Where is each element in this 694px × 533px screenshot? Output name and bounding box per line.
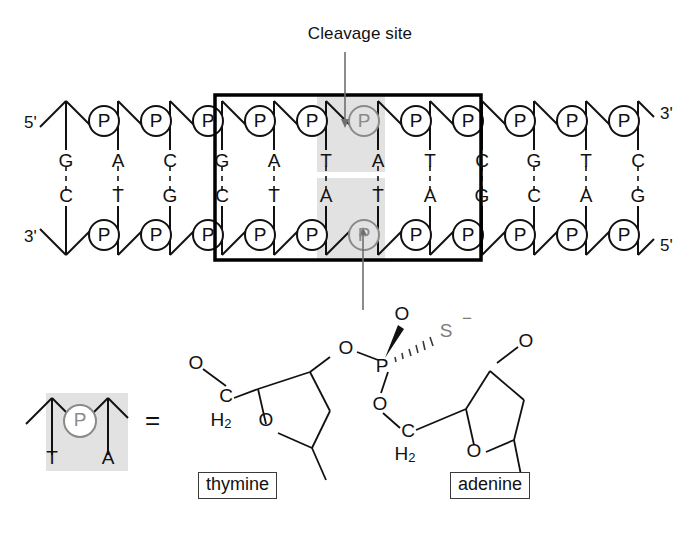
five-prime-left-label: 5' xyxy=(24,113,37,133)
phosphate-label: P xyxy=(560,110,584,132)
top-base: A xyxy=(366,150,390,172)
thymine-base-box: thymine xyxy=(198,472,277,499)
phosphate-label-cleaved: P xyxy=(352,224,376,246)
phosphate-label: P xyxy=(404,224,428,246)
top-base: A xyxy=(262,150,286,172)
cleavage-site-label: Cleavage site xyxy=(280,24,440,44)
bottom-base: C xyxy=(54,185,78,207)
sulfur-label: S xyxy=(437,320,455,342)
three-prime-right-label: 3' xyxy=(660,104,673,124)
phosphate-label-cleaved: P xyxy=(352,110,376,132)
three-prime-left-label: 3' xyxy=(24,227,37,247)
bottom-base: G xyxy=(626,185,650,207)
top-base: T xyxy=(574,150,598,172)
top-base: T xyxy=(314,150,338,172)
phosphate-label: P xyxy=(508,110,532,132)
adenine-ch2-h: H xyxy=(395,443,409,464)
legend-base-thymine: T xyxy=(40,447,64,469)
thymine-ch2-label: H2 xyxy=(204,409,238,431)
phosphorus-label: P xyxy=(372,355,392,377)
phosphate-label: P xyxy=(612,110,636,132)
phosphate-label: P xyxy=(196,224,220,246)
phosphate-label: P xyxy=(92,110,116,132)
top-base: G xyxy=(210,150,234,172)
adenine-ch2-label: H2 xyxy=(388,443,422,465)
phosphate-label: P xyxy=(456,224,480,246)
phosphate-label: P xyxy=(508,224,532,246)
phosphate-label: P xyxy=(456,110,480,132)
adenine-ring-oxygen-label: O xyxy=(464,440,484,462)
bridging-oxygen-left-label: O xyxy=(336,337,356,359)
phosphate-label: P xyxy=(144,224,168,246)
bottom-base: G xyxy=(470,185,494,207)
phosphate-label: P xyxy=(300,110,324,132)
legend-base-adenine: A xyxy=(96,447,120,469)
bottom-base: G xyxy=(158,185,182,207)
bottom-base: C xyxy=(210,185,234,207)
adenine-terminal-oxygen-label: O xyxy=(516,330,536,352)
phosphate-label: P xyxy=(144,110,168,132)
phosphate-label: P xyxy=(612,224,636,246)
bottom-base: A xyxy=(314,185,338,207)
top-base: T xyxy=(418,150,442,172)
bottom-base: T xyxy=(366,185,390,207)
phosphate-label: P xyxy=(248,224,272,246)
phosphate-label: P xyxy=(300,224,324,246)
thymine-ring-oxygen-label: O xyxy=(256,409,276,431)
dna-cleavage-figure: Cleavage site 5' 3' 3' 5' P P P P P P P … xyxy=(0,0,694,533)
adenine-base-box: adenine xyxy=(450,472,530,499)
top-base: C xyxy=(158,150,182,172)
phosphate-label: P xyxy=(404,110,428,132)
legend-phosphate-label: P xyxy=(68,409,92,431)
wedge-bond-oxygen xyxy=(385,325,404,358)
top-base: C xyxy=(470,150,494,172)
hashed-bond-sulfur xyxy=(395,337,433,362)
phosphate-label: P xyxy=(92,224,116,246)
thymine-ch2-count: 2 xyxy=(224,416,231,431)
equals-sign: = xyxy=(145,405,160,436)
sulfur-charge-label: − xyxy=(460,309,474,329)
phosphate-label: P xyxy=(196,110,220,132)
adenine-ch2-count: 2 xyxy=(408,450,415,465)
five-prime-right-label: 5' xyxy=(660,236,673,256)
thymine-carbon-label: C xyxy=(216,385,236,407)
top-base: C xyxy=(626,150,650,172)
phosphate-label: P xyxy=(560,224,584,246)
top-base: G xyxy=(522,150,546,172)
adenine-carbon-label: C xyxy=(398,420,418,442)
top-base: A xyxy=(106,150,130,172)
top-base: G xyxy=(54,150,78,172)
thymine-ch2-h: H xyxy=(211,409,225,430)
bottom-base: T xyxy=(262,185,286,207)
bottom-base: T xyxy=(106,185,130,207)
thymine-terminal-oxygen-label: O xyxy=(186,352,206,374)
bottom-base: A xyxy=(574,185,598,207)
bottom-base: C xyxy=(522,185,546,207)
phosphate-label: P xyxy=(248,110,272,132)
double-bond-oxygen-label: O xyxy=(392,303,412,325)
bridging-oxygen-right-label: O xyxy=(370,393,390,415)
bottom-base: A xyxy=(418,185,442,207)
